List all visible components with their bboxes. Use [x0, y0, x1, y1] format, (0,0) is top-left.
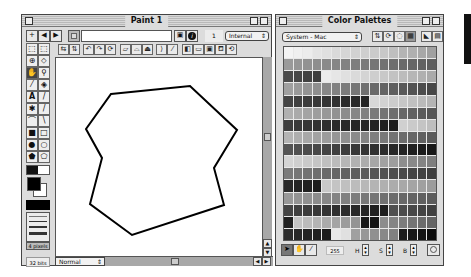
- palette-color-cell[interactable]: [418, 59, 427, 70]
- vertical-scrollbar[interactable]: ▲ ▼: [262, 57, 272, 259]
- palette-color-cell[interactable]: [303, 120, 312, 131]
- darken-button[interactable]: ▣: [204, 44, 215, 55]
- palette-color-cell[interactable]: [322, 217, 331, 228]
- palette-color-cell[interactable]: [370, 71, 379, 82]
- palette-color-cell[interactable]: [427, 83, 436, 94]
- palette-color-cell[interactable]: [408, 120, 417, 131]
- palette-color-cell[interactable]: [351, 144, 360, 155]
- palette-color-cell[interactable]: [294, 132, 303, 143]
- palette-color-cell[interactable]: [294, 205, 303, 216]
- palette-color-cell[interactable]: [370, 205, 379, 216]
- palette-color-cell[interactable]: [408, 229, 417, 240]
- script-button[interactable]: ▣: [174, 30, 186, 42]
- palette-color-cell[interactable]: [418, 156, 427, 167]
- cast-member-name-field[interactable]: [81, 30, 172, 42]
- palette-color-cell[interactable]: [399, 217, 408, 228]
- palette-color-cell[interactable]: [389, 193, 398, 204]
- palette-color-cell[interactable]: [370, 193, 379, 204]
- palette-color-cell[interactable]: [418, 217, 427, 228]
- palette-color-cell[interactable]: [418, 96, 427, 107]
- palette-color-cell[interactable]: [294, 180, 303, 191]
- palette-color-cell[interactable]: [341, 144, 350, 155]
- palette-color-cell[interactable]: [408, 47, 417, 58]
- palette-color-cell[interactable]: [427, 217, 436, 228]
- trace-edges-button[interactable]: ⁄: [167, 44, 178, 55]
- collapse-box[interactable]: [432, 17, 440, 25]
- palette-color-cell[interactable]: [389, 108, 398, 119]
- palette-color-cell[interactable]: [361, 205, 370, 216]
- palette-color-cell[interactable]: [408, 205, 417, 216]
- palette-color-cell[interactable]: [313, 156, 322, 167]
- palette-color-cell[interactable]: [303, 47, 312, 58]
- palette-color-cell[interactable]: [427, 59, 436, 70]
- palette-color-cell[interactable]: [294, 71, 303, 82]
- text-tool[interactable]: A: [26, 91, 38, 103]
- palette-color-cell[interactable]: [294, 193, 303, 204]
- line-width-none[interactable]: [29, 216, 47, 217]
- palette-color-cell[interactable]: [322, 83, 331, 94]
- palette-color-cell[interactable]: [427, 71, 436, 82]
- palette-color-cell[interactable]: [380, 108, 389, 119]
- palette-color-cell[interactable]: [370, 108, 379, 119]
- palette-color-cell[interactable]: [370, 217, 379, 228]
- palette-color-cell[interactable]: [399, 71, 408, 82]
- palette-color-cell[interactable]: [399, 108, 408, 119]
- skew-button[interactable]: ▱: [120, 44, 131, 55]
- ink-mode-select[interactable]: Normal ⇕: [55, 257, 105, 266]
- palette-color-cell[interactable]: [418, 47, 427, 58]
- palette-color-cell[interactable]: [284, 168, 293, 179]
- palette-color-cell[interactable]: [284, 180, 293, 191]
- palette-color-cell[interactable]: [361, 217, 370, 228]
- palette-color-cell[interactable]: [313, 168, 322, 179]
- palette-color-cell[interactable]: [313, 83, 322, 94]
- brightness-stepper[interactable]: ▴▾: [410, 244, 417, 256]
- close-box[interactable]: [279, 17, 287, 25]
- select-used-colors-button[interactable]: ▦: [405, 31, 416, 42]
- palette-color-cell[interactable]: [294, 108, 303, 119]
- palette-color-cell[interactable]: [418, 83, 427, 94]
- palette-titlebar[interactable]: Color Palettes: [276, 15, 443, 27]
- palette-color-cell[interactable]: [341, 71, 350, 82]
- palette-color-cell[interactable]: [389, 47, 398, 58]
- palette-color-cell[interactable]: [361, 132, 370, 143]
- palette-color-cell[interactable]: [418, 229, 427, 240]
- palette-color-cell[interactable]: [370, 132, 379, 143]
- palette-color-cell[interactable]: [427, 193, 436, 204]
- palette-color-cell[interactable]: [408, 71, 417, 82]
- palette-color-cell[interactable]: [389, 156, 398, 167]
- palette-color-cell[interactable]: [399, 47, 408, 58]
- palette-color-cell[interactable]: [370, 59, 379, 70]
- palette-color-cell[interactable]: [389, 144, 398, 155]
- flip-horizontal-button[interactable]: ⇆: [58, 44, 69, 55]
- palette-color-cell[interactable]: [427, 144, 436, 155]
- palette-color-cell[interactable]: [380, 156, 389, 167]
- palette-color-cell[interactable]: [370, 156, 379, 167]
- fill-button[interactable]: ⛾: [215, 44, 226, 55]
- palette-color-cell[interactable]: [341, 229, 350, 240]
- palette-color-cell[interactable]: [322, 120, 331, 131]
- palette-color-cell[interactable]: [294, 168, 303, 179]
- rotate-right-button[interactable]: ↷: [94, 44, 105, 55]
- palette-color-cell[interactable]: [284, 83, 293, 94]
- palette-color-cell[interactable]: [427, 132, 436, 143]
- collapse-box[interactable]: [260, 17, 268, 25]
- palette-color-cell[interactable]: [341, 132, 350, 143]
- palette-color-cell[interactable]: [418, 108, 427, 119]
- palette-color-cell[interactable]: [351, 132, 360, 143]
- lasso-tool[interactable]: ⬚: [38, 43, 50, 55]
- palette-color-cell[interactable]: [399, 132, 408, 143]
- arrow-tool-button[interactable]: ➤: [281, 244, 293, 256]
- palette-color-cell[interactable]: [389, 132, 398, 143]
- palette-color-cell[interactable]: [389, 168, 398, 179]
- palette-color-cell[interactable]: [341, 96, 350, 107]
- palette-color-cell[interactable]: [351, 96, 360, 107]
- palette-color-cell[interactable]: [303, 144, 312, 155]
- palette-color-cell[interactable]: [389, 229, 398, 240]
- palette-color-cell[interactable]: [313, 71, 322, 82]
- palette-color-cell[interactable]: [380, 205, 389, 216]
- palette-color-cell[interactable]: [284, 193, 293, 204]
- switch-colors-button[interactable]: ⟲: [226, 44, 237, 55]
- palette-color-cell[interactable]: [418, 144, 427, 155]
- palette-color-cell[interactable]: [427, 96, 436, 107]
- palette-color-cell[interactable]: [399, 180, 408, 191]
